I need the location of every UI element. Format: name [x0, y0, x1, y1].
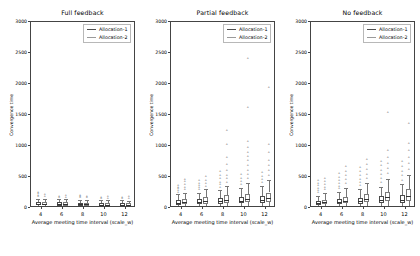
- cap-lower: [260, 206, 264, 207]
- x-tick-label: 8: [213, 211, 233, 217]
- y-tick-mark: [308, 176, 310, 177]
- whisker-lower: [122, 206, 123, 207]
- y-tick-label: 2500: [282, 50, 307, 55]
- x-tick-mark: [342, 207, 343, 209]
- legend[interactable]: Allocation-1Allocation-2: [83, 24, 131, 44]
- x-tick-label: 4: [311, 211, 331, 217]
- legend[interactable]: Allocation-1Allocation-2: [223, 24, 271, 44]
- y-tick-label: 3000: [282, 19, 307, 24]
- y-tick-mark: [168, 52, 170, 53]
- y-axis-label: Convergence time: [9, 94, 14, 136]
- y-tick-mark: [168, 83, 170, 84]
- x-tick-label: 10: [374, 211, 394, 217]
- panel-title: Partial feedback: [170, 9, 275, 16]
- cap-lower: [218, 206, 222, 207]
- outlier-marker: +: [268, 174, 271, 177]
- y-tick-label: 0: [142, 205, 167, 210]
- legend-label: Allocation-2: [379, 35, 407, 40]
- outlier-marker: +: [268, 165, 271, 168]
- outlier-marker: +: [268, 86, 271, 89]
- y-tick-mark: [28, 114, 30, 115]
- median-line: [406, 196, 411, 197]
- plot-area: ++++++++++++++++++++++++++++++++++++++++…: [170, 21, 275, 207]
- y-tick-label: 2000: [142, 81, 167, 86]
- cap-lower: [323, 207, 327, 208]
- x-tick-label: 4: [31, 211, 51, 217]
- legend-item-2[interactable]: Allocation-2: [87, 35, 127, 40]
- y-tick-mark: [28, 52, 30, 53]
- x-tick-mark: [223, 207, 224, 209]
- median-line: [126, 205, 131, 206]
- cap-lower: [337, 206, 341, 207]
- x-tick-label: 6: [192, 211, 212, 217]
- legend-item-1[interactable]: Allocation-1: [367, 27, 407, 32]
- legend-line-icon: [227, 37, 236, 38]
- x-tick-mark: [363, 207, 364, 209]
- legend-item-2[interactable]: Allocation-2: [227, 35, 267, 40]
- y-tick-mark: [168, 145, 170, 146]
- legend-line-icon: [367, 37, 376, 38]
- outlier-marker: +: [128, 196, 131, 199]
- legend-item-2[interactable]: Allocation-2: [367, 35, 407, 40]
- x-tick-label: 12: [255, 211, 275, 217]
- x-tick-mark: [265, 207, 266, 209]
- cap-lower: [344, 206, 348, 207]
- panel-title: Full feedback: [30, 9, 135, 16]
- legend-label: Allocation-2: [239, 35, 267, 40]
- x-tick-mark: [202, 207, 203, 209]
- y-tick-mark: [308, 145, 310, 146]
- legend[interactable]: Allocation-1Allocation-2: [363, 24, 411, 44]
- y-tick-label: 1000: [2, 143, 27, 148]
- y-tick-mark: [308, 21, 310, 22]
- outlier-marker: +: [268, 152, 271, 155]
- cap-lower: [197, 207, 201, 208]
- y-tick-label: 1500: [282, 112, 307, 117]
- y-tick-mark: [28, 207, 30, 208]
- boxplot-allocation-2-x12: ++: [31, 22, 134, 206]
- outlier-marker: +: [408, 156, 411, 159]
- x-axis-label: Average meeting time interval (scale_w): [162, 219, 283, 225]
- cap-lower: [246, 206, 250, 207]
- y-tick-label: 2500: [2, 50, 27, 55]
- whisker-upper: [409, 175, 410, 190]
- y-tick-label: 1500: [2, 112, 27, 117]
- outlier-marker: +: [408, 168, 411, 171]
- whisker-upper: [269, 180, 270, 192]
- median-line: [266, 198, 271, 199]
- y-axis-label: Convergence time: [289, 94, 294, 136]
- legend-item-1[interactable]: Allocation-1: [227, 27, 267, 32]
- x-tick-label: 10: [234, 211, 254, 217]
- y-tick-label: 0: [2, 205, 27, 210]
- legend-label: Allocation-1: [239, 27, 267, 32]
- legend-item-1[interactable]: Allocation-1: [87, 27, 127, 32]
- legend-label: Allocation-1: [379, 27, 407, 32]
- x-tick-mark: [104, 207, 105, 209]
- outlier-marker: +: [268, 170, 271, 173]
- cap-lower: [400, 206, 404, 207]
- panel-title: No feedback: [310, 9, 415, 16]
- y-tick-mark: [308, 114, 310, 115]
- x-tick-label: 4: [171, 211, 191, 217]
- cap-lower: [407, 206, 411, 207]
- y-tick-label: 500: [142, 174, 167, 179]
- x-tick-mark: [83, 207, 84, 209]
- cap-upper: [407, 175, 411, 176]
- y-tick-label: 3000: [142, 19, 167, 24]
- y-axis-label: Convergence time: [149, 94, 154, 136]
- x-tick-label: 12: [115, 211, 135, 217]
- y-tick-label: 3000: [2, 19, 27, 24]
- legend-line-icon: [227, 29, 236, 30]
- legend-line-icon: [87, 29, 96, 30]
- x-tick-label: 6: [52, 211, 72, 217]
- y-tick-mark: [168, 21, 170, 22]
- x-tick-mark: [62, 207, 63, 209]
- boxplot-allocation-2-x12: +++++++: [171, 22, 274, 206]
- y-tick-mark: [28, 21, 30, 22]
- x-tick-mark: [41, 207, 42, 209]
- y-tick-mark: [308, 207, 310, 208]
- cap-lower: [239, 206, 243, 207]
- y-tick-label: 500: [282, 174, 307, 179]
- panel-partial-feedback: Partial feedback++++++++++++++++++++++++…: [140, 0, 280, 256]
- y-tick-mark: [28, 176, 30, 177]
- x-tick-label: 8: [353, 211, 373, 217]
